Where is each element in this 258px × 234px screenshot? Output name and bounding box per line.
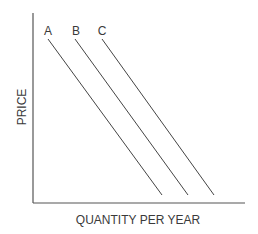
y-axis-label: PRICE (15, 89, 29, 126)
curve-c (102, 39, 214, 195)
curve-label-a: A (44, 24, 52, 38)
curve-a (48, 39, 162, 195)
curve-b (75, 39, 188, 195)
x-axis-label: QUANTITY PER YEAR (76, 213, 201, 227)
curve-label-b: B (72, 24, 80, 38)
curve-label-c: C (98, 24, 107, 38)
demand-diagram: A B C PRICE QUANTITY PER YEAR (0, 0, 258, 234)
